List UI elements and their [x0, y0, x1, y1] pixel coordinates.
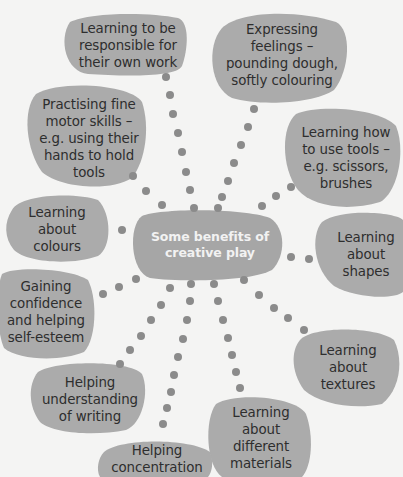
benefit-textures: Learning about textures [296, 330, 400, 404]
dot-trail-materials [210, 280, 244, 392]
benefit-responsible: Learning to be responsible for their own… [66, 14, 190, 76]
dot-trail-concentration [159, 280, 195, 428]
dot-trail-responsible [162, 73, 198, 212]
benefit-concentration: Helping concentration [98, 440, 216, 477]
benefit-fine-motor: Practising fine motor skills – e.g. usin… [30, 86, 148, 190]
benefit-colours: Learning about colours [6, 198, 108, 260]
dot-trail-confidence [99, 275, 140, 298]
benefit-expressing: Expressing feelings – pounding dough, so… [214, 14, 350, 96]
dot-trail-shapes [287, 253, 313, 263]
dot-trail-colours [118, 226, 126, 234]
dot-trail-writing [116, 284, 174, 368]
dot-trail-textures [240, 276, 308, 334]
benefit-shapes: Learning about shapes [316, 212, 403, 296]
benefit-confidence: Gaining confidence and helping self-este… [0, 268, 92, 356]
benefit-tools: Learning how to use tools – e.g. scissor… [288, 112, 403, 204]
dot-trail-expressing [214, 105, 258, 212]
benefit-materials: Learning about different materials [208, 398, 314, 477]
center-topic: Some benefits of creative play [136, 212, 284, 278]
benefit-writing: Helping understanding of writing [32, 366, 148, 432]
